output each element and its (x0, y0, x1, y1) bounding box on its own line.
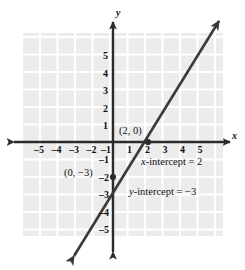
y-tick-label-4: 4 (103, 69, 108, 79)
x-tick-label-2: 2 (145, 145, 150, 155)
y-tick-label-5: 5 (103, 51, 108, 61)
note-x-intercept: x-intercept = 2 (141, 157, 202, 168)
y-tick-label--1: –1 (99, 155, 109, 165)
annotation-point-x-intercept: (2, 0) (119, 126, 142, 137)
y-tick-label--3: –3 (99, 190, 109, 200)
x-tick-label-4: 4 (180, 145, 185, 155)
y-tick-label--5: –5 (99, 225, 109, 235)
x-tick-label-5: 5 (198, 145, 203, 155)
note-y-intercept: y-intercept = −3 (129, 187, 196, 198)
x-tick-label-3: 3 (163, 145, 168, 155)
x-tick-label--2: –2 (87, 145, 97, 155)
y-tick-label--2: –2 (99, 173, 109, 183)
note-y-intercept-text: -intercept = −3 (134, 186, 197, 197)
y-tick-label--4: –4 (99, 208, 109, 218)
y-tick-label-3: 3 (103, 86, 108, 96)
annotation-point-y-intercept: (0, −3) (64, 168, 93, 179)
x-tick-label--5: –5 (34, 145, 44, 155)
x-tick-label-1: 1 (127, 145, 132, 155)
x-tick-label--4: –4 (52, 145, 62, 155)
x-tick-label--3: –3 (69, 145, 79, 155)
point-y-intercept (110, 174, 116, 180)
y-tick-label-2: 2 (103, 104, 108, 114)
y-tick-label-1: 1 (103, 121, 108, 131)
coordinate-plane-figure: x y –5 –4 –3 –2 –1 1 2 3 4 5 5 4 3 2 1 –… (0, 0, 245, 270)
note-x-intercept-text: -intercept = 2 (146, 156, 203, 167)
y-axis-label: y (116, 8, 120, 18)
x-axis-label: x (232, 131, 237, 141)
